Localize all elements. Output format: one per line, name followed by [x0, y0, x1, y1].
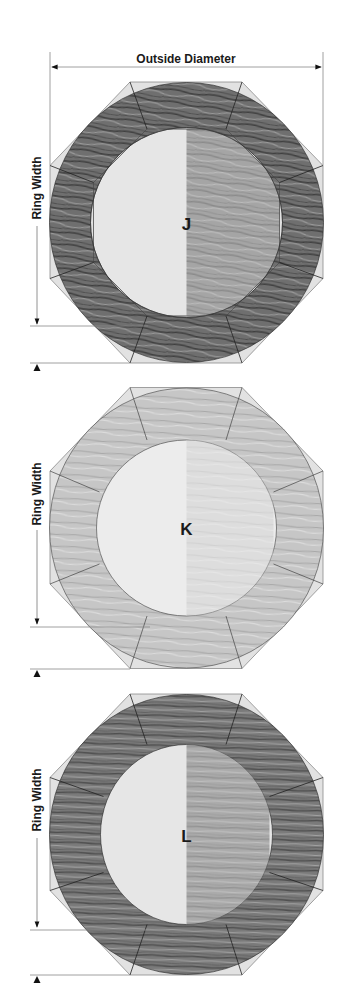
- ring-width-label-j: Ring Width: [30, 156, 44, 219]
- outside-diameter-label: Outside Diameter: [136, 52, 236, 66]
- panel-label-l: L: [181, 827, 191, 846]
- ring-width-label-k: Ring Width: [30, 462, 44, 525]
- panel-label-k: K: [180, 520, 193, 539]
- ring-panel-l: L: [50, 694, 324, 975]
- ring-panel-k: K: [50, 388, 324, 669]
- segmented-ring-diagram: Outside Diameter J: [0, 0, 342, 1003]
- panel-label-j: J: [182, 215, 191, 234]
- ring-panel-j: J: [50, 82, 324, 363]
- ring-width-label-l: Ring Width: [30, 768, 44, 831]
